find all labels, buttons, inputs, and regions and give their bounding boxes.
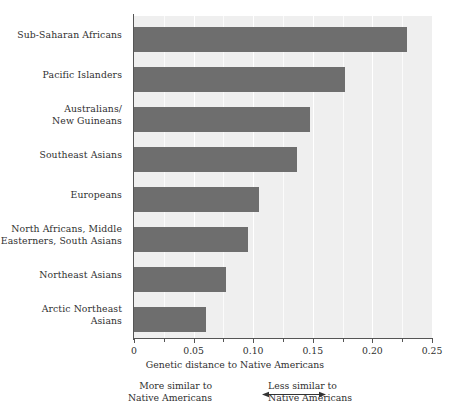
xtick-0175	[343, 338, 344, 342]
xtick-0025	[164, 338, 165, 342]
category-label-europeans: Europeans	[71, 189, 122, 201]
bar-pacific-islanders	[134, 67, 345, 92]
category-label-northeast-asians: Northeast Asians	[39, 269, 122, 281]
gridline-minor-0225	[402, 16, 403, 338]
annotation-less-similar: Less similar to Native Americans	[268, 380, 352, 403]
annotation-more-similar: More similar to Native Americans	[128, 380, 212, 403]
gridline-major-020	[372, 16, 373, 338]
xticklabel-025: 0.25	[422, 345, 443, 356]
bar-sub-saharan-africans	[134, 27, 407, 52]
xtick-005	[194, 338, 195, 343]
xtick-0125	[283, 338, 284, 342]
xticklabel-015: 0.15	[302, 345, 323, 356]
category-label-australians-new-guineans: Australians/ New Guineans	[52, 103, 122, 126]
xtick-010	[253, 338, 254, 343]
xtick-0225	[402, 338, 403, 342]
category-label-sub-saharan-africans: Sub-Saharan Africans	[17, 29, 122, 41]
bar-australians-new-guineans	[134, 107, 310, 132]
category-label-southeast-asians: Southeast Asians	[39, 149, 122, 161]
xticklabel-010: 0.10	[243, 345, 264, 356]
gridline-major-015	[313, 16, 314, 338]
category-label-pacific-islanders: Pacific Islanders	[43, 69, 122, 81]
plot-area	[134, 16, 432, 338]
xtick-020	[372, 338, 373, 343]
category-label-arctic-northeast-asians: Arctic Northeast Asians	[42, 303, 122, 326]
bar-northeast-asians	[134, 267, 226, 292]
x-axis-title: Genetic distance to Native Americans	[0, 359, 470, 370]
bar-arctic-northeast-asians	[134, 307, 206, 332]
xtick-015	[313, 338, 314, 343]
category-label-north-africans-middle-easterners-south-asians: North Africans, Middle Easterners, South…	[1, 223, 122, 246]
gridline-major-010	[253, 16, 254, 338]
gridline-minor-0175	[343, 16, 344, 338]
bar-southeast-asians	[134, 147, 297, 172]
xtick-025	[432, 338, 433, 343]
xticklabel-0: 0	[131, 345, 137, 356]
genetic-distance-bar-chart: Sub-Saharan Africans Pacific Islanders A…	[0, 0, 470, 420]
similarity-annotation: More similar to Native Americans Less si…	[0, 380, 470, 414]
gridline-minor-0125	[283, 16, 284, 338]
category-label-column: Sub-Saharan Africans Pacific Islanders A…	[0, 16, 128, 338]
xtick-0	[134, 338, 135, 343]
xticklabel-020: 0.20	[362, 345, 383, 356]
xticklabel-005: 0.05	[183, 345, 204, 356]
xtick-0075	[223, 338, 224, 342]
bar-europeans	[134, 187, 259, 212]
bar-north-africans-middle-easterners-south-asians	[134, 227, 248, 252]
y-axis-line	[133, 14, 134, 340]
